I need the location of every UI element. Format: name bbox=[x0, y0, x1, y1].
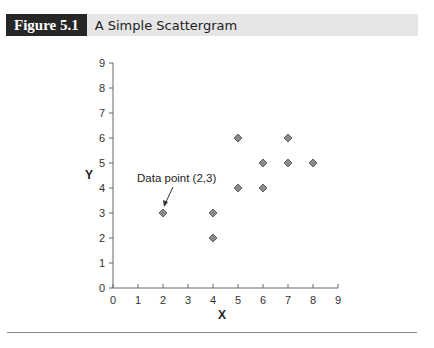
y-axis-label: Y bbox=[85, 168, 93, 182]
x-tick-label: 7 bbox=[285, 294, 291, 306]
diamond-marker bbox=[284, 159, 292, 167]
y-tick-label: 8 bbox=[99, 82, 105, 94]
diamond-marker bbox=[234, 134, 242, 142]
diamond-marker bbox=[209, 234, 217, 242]
diamond-marker bbox=[309, 159, 317, 167]
diamond-marker bbox=[234, 184, 242, 192]
x-tick-label: 2 bbox=[160, 294, 166, 306]
x-tick-label: 8 bbox=[310, 294, 316, 306]
x-tick-label: 9 bbox=[335, 294, 341, 306]
x-axis-label: X bbox=[218, 308, 226, 322]
annotation-label: Data point (2,3) bbox=[137, 172, 216, 184]
y-tick-label: 1 bbox=[99, 257, 105, 269]
y-tick-label: 2 bbox=[99, 232, 105, 244]
scatter-chart: 0123456789 0123456789 Y X Data point (2,… bbox=[0, 0, 434, 348]
x-tick-label: 0 bbox=[110, 294, 116, 306]
x-tick-label: 4 bbox=[210, 294, 216, 306]
y-tick-label: 3 bbox=[99, 207, 105, 219]
x-tick-label: 1 bbox=[135, 294, 141, 306]
diamond-marker bbox=[209, 209, 217, 217]
y-tick-label: 4 bbox=[99, 182, 105, 194]
diamond-marker bbox=[284, 134, 292, 142]
x-tick-label: 3 bbox=[185, 294, 191, 306]
y-tick-label: 5 bbox=[99, 157, 105, 169]
x-axis: 0123456789 bbox=[110, 284, 341, 306]
data-points bbox=[159, 134, 317, 242]
bottom-rule bbox=[7, 332, 417, 333]
annotations: Data point (2,3) bbox=[137, 172, 216, 207]
x-tick-label: 6 bbox=[260, 294, 266, 306]
y-tick-label: 0 bbox=[99, 282, 105, 294]
diamond-marker bbox=[159, 209, 167, 217]
diamond-marker bbox=[259, 184, 267, 192]
x-tick-label: 5 bbox=[235, 294, 241, 306]
y-tick-label: 6 bbox=[99, 132, 105, 144]
arrow-icon bbox=[163, 200, 168, 207]
y-tick-label: 9 bbox=[99, 57, 105, 69]
diamond-marker bbox=[259, 159, 267, 167]
y-tick-label: 7 bbox=[99, 107, 105, 119]
y-axis: 0123456789 bbox=[99, 57, 113, 294]
